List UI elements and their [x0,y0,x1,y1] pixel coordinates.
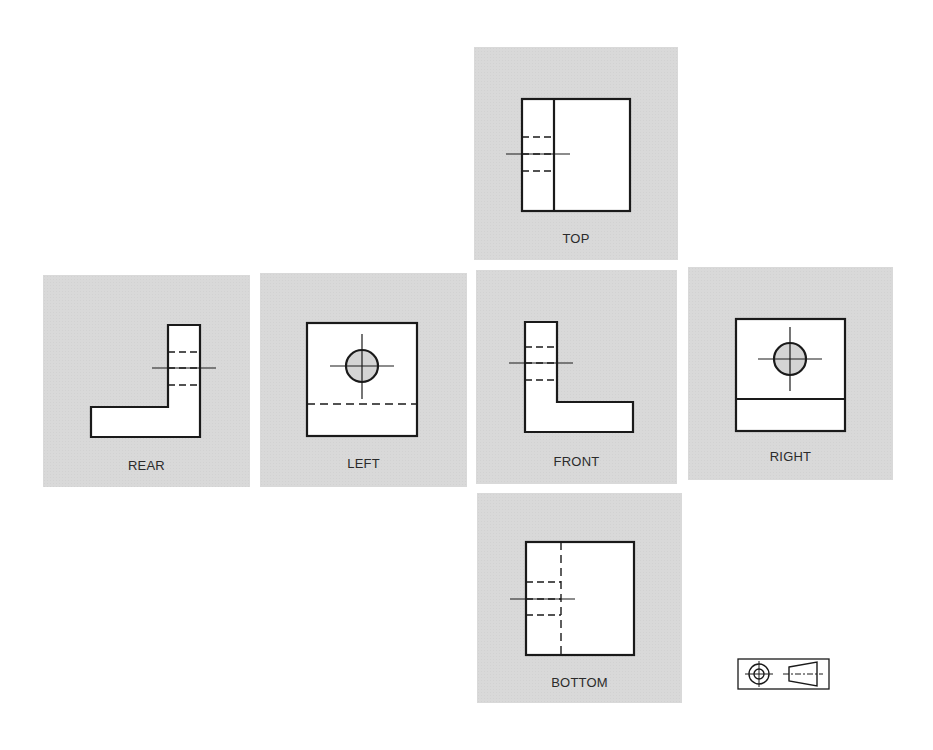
view-panel-bottom: BOTTOM [477,493,682,703]
top-view-drawing [474,47,678,260]
view-label-front: FRONT [476,454,677,469]
view-panel-top: TOP [474,47,678,260]
view-label-left: LEFT [260,456,467,471]
rear-view-drawing [43,275,250,487]
front-view-drawing [476,270,677,484]
view-label-rear: REAR [43,458,250,473]
view-label-top: TOP [474,231,678,246]
bottom-view-drawing [477,493,682,703]
view-panel-right: RIGHT [688,267,893,480]
third-angle-projection-symbol-icon [737,658,830,690]
left-view-drawing [260,273,467,487]
view-panel-left: LEFT [260,273,467,487]
view-label-bottom: BOTTOM [477,675,682,690]
view-panel-front: FRONT [476,270,677,484]
view-panel-rear: REAR [43,275,250,487]
view-label-right: RIGHT [688,449,893,464]
